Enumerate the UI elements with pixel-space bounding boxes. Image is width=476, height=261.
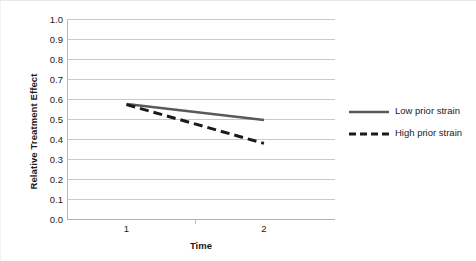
y-axis-tick-label: 0.1 [17, 194, 63, 205]
series-lines [67, 19, 335, 219]
y-axis-tick-label: 0.5 [17, 114, 63, 125]
y-axis-tick-label: 0.0 [17, 214, 63, 225]
legend-item: Low prior strain [349, 99, 473, 121]
y-axis-tick-label: 0.8 [17, 54, 63, 65]
y-axis-tick-label: 0.7 [17, 74, 63, 85]
chart-legend: Low prior strainHigh prior strain [349, 99, 473, 143]
x-axis-tick-labels: 12 [67, 223, 335, 239]
gridline [67, 219, 335, 220]
y-axis-tick-label: 0.6 [17, 94, 63, 105]
y-axis-tick-labels: 1.00.90.80.70.60.50.40.30.20.10.0 [1, 1, 63, 261]
series-line [127, 105, 264, 144]
legend-label: Low prior strain [395, 105, 460, 116]
y-axis-tick-label: 0.3 [17, 154, 63, 165]
legend-label: High prior strain [395, 127, 462, 138]
y-axis-tick-label: 0.2 [17, 174, 63, 185]
dashed-line-swatch [349, 126, 389, 138]
x-axis-tick-label: 2 [261, 223, 266, 234]
y-axis-tick-label: 1.0 [17, 14, 63, 25]
y-axis-tick-label: 0.4 [17, 134, 63, 145]
x-axis-tick-label: 1 [124, 223, 129, 234]
plot-area [67, 19, 335, 219]
series-line [127, 104, 264, 120]
x-axis-title: Time [67, 240, 335, 251]
y-axis-tick-label: 0.9 [17, 34, 63, 45]
solid-line-swatch [349, 104, 389, 116]
chart-container: Relative Treatment Effect 1.00.90.80.70.… [0, 0, 476, 261]
legend-item: High prior strain [349, 121, 473, 143]
